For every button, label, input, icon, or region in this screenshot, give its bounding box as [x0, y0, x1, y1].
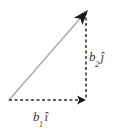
horizontal-component-arrowhead-icon — [77, 95, 86, 104]
vertical-component-unit-vector: ĵ — [101, 49, 105, 64]
vertical-component-label: b2ĵ — [89, 50, 103, 67]
vector-diagram-canvas — [0, 0, 121, 137]
vertical-component-subscript: 2 — [95, 60, 99, 69]
resultant-vector-line — [9, 14, 84, 100]
vector-decomposition-figure: b2ĵ b1î — [0, 0, 121, 137]
horizontal-component-unit-vector: î — [45, 109, 49, 124]
horizontal-component-subscript: 1 — [39, 120, 43, 129]
horizontal-component-label: b1î — [33, 110, 47, 127]
